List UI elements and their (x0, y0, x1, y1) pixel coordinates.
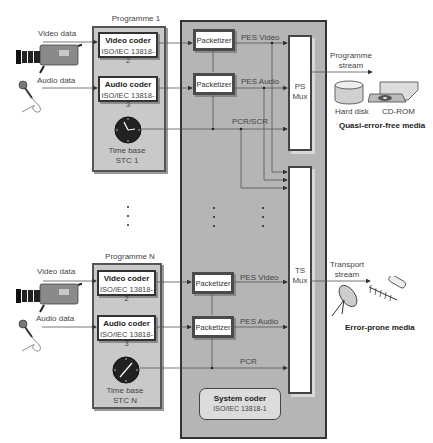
hard-disk-icon (334, 80, 364, 106)
ellipsis-dot (127, 224, 129, 226)
ellipsis-dot (127, 215, 129, 217)
microphone-icon (18, 319, 46, 353)
ellipsis-dot (213, 225, 215, 227)
ellipsis-dot (213, 216, 215, 218)
clock-icon (112, 356, 140, 384)
ellipsis-dot (213, 207, 215, 209)
clock-icon (114, 116, 142, 144)
cd-rom-drive-icon (368, 80, 420, 106)
ellipsis-dot (262, 225, 264, 227)
satellite-dish-icon (330, 284, 360, 318)
ellipsis-dot (127, 206, 129, 208)
cable-icon (386, 276, 408, 290)
ellipsis-dot (262, 207, 264, 209)
ellipsis-dot (262, 216, 264, 218)
video-camera-icon (16, 44, 82, 74)
microphone-icon (18, 80, 46, 114)
video-camera-icon (16, 283, 82, 313)
